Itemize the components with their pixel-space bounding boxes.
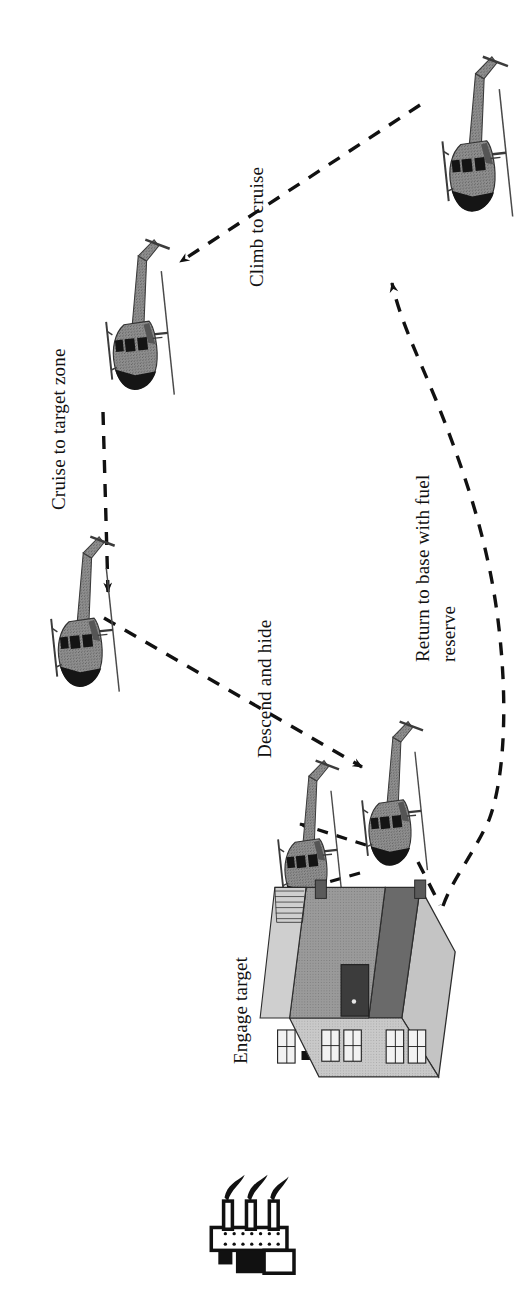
helicopter-approach (43, 534, 130, 698)
helicopter-cruise (98, 237, 185, 401)
label-cruise-to-target-zone: Cruise to target zone (48, 348, 69, 510)
rocket-launcher-icon (211, 1175, 294, 1274)
helicopter-hidden (354, 719, 437, 876)
label-descend-and-hide: Descend and hide (254, 620, 275, 758)
path-descend-and-hide (104, 618, 362, 767)
path-climb-to-cruise (180, 105, 420, 262)
label-return-to-base-line1: Return to base with fuel (412, 475, 433, 662)
diagram-canvas: Climb to cruise Cruise to target zone De… (0, 0, 531, 1299)
mission-profile-diagram: Climb to cruise Cruise to target zone De… (0, 0, 531, 1299)
helicopter-base-takeoff (434, 54, 524, 223)
building-icon (260, 880, 455, 1077)
label-engage-target: Engage target (230, 956, 251, 1064)
label-return-to-base-line2: reserve (438, 606, 459, 662)
path-cruise-to-target-zone (103, 412, 108, 592)
label-climb-to-cruise: Climb to cruise (246, 167, 267, 287)
